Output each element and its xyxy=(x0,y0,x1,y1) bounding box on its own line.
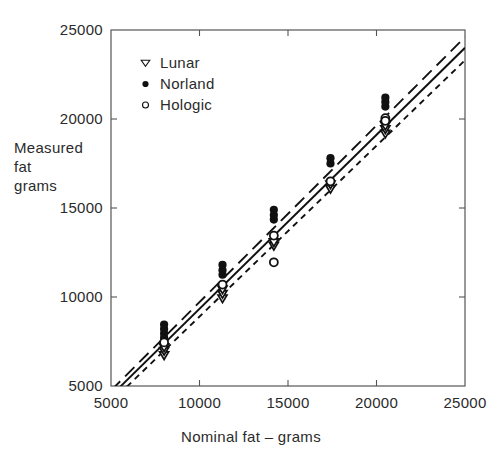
y-axis-title-line: grams xyxy=(14,176,83,195)
y-axis-title: Measuredfatgrams xyxy=(14,138,83,195)
x-tick-label: 10000 xyxy=(160,394,240,411)
y-tick-label: 20000 xyxy=(37,110,103,127)
x-tick-label: 25000 xyxy=(425,394,502,411)
filled-circle-icon xyxy=(137,75,154,92)
data-point-norland xyxy=(270,206,278,214)
data-point-norland xyxy=(160,320,168,328)
data-point-hologic xyxy=(160,338,168,346)
chart-legend: Lunar Norland Hologic xyxy=(137,52,215,115)
legend-label: Norland xyxy=(160,75,215,92)
data-point-hologic xyxy=(381,117,389,125)
data-point-norland xyxy=(326,154,334,162)
data-point-norland xyxy=(381,94,389,102)
legend-item-hologic: Hologic xyxy=(137,94,215,115)
open-circle-icon xyxy=(137,96,154,113)
data-point-hologic xyxy=(270,232,278,240)
y-axis-title-line: fat xyxy=(14,157,83,176)
x-tick-label: 5000 xyxy=(71,394,151,411)
y-tick-label: 10000 xyxy=(37,288,103,305)
legend-item-norland: Norland xyxy=(137,73,215,94)
y-tick-label: 5000 xyxy=(37,377,103,394)
data-point-norland xyxy=(218,261,226,269)
y-tick-label: 15000 xyxy=(37,199,103,216)
x-tick-label: 15000 xyxy=(248,394,328,411)
legend-item-lunar: Lunar xyxy=(137,52,215,73)
x-tick-label: 20000 xyxy=(337,394,417,411)
legend-label: Hologic xyxy=(160,96,212,113)
open-down-triangle-icon xyxy=(137,54,154,71)
data-point-hologic xyxy=(326,177,334,185)
y-tick-label: 25000 xyxy=(37,21,103,38)
data-point-hologic xyxy=(270,258,278,266)
x-axis-title: Nominal fat – grams xyxy=(0,428,502,445)
figure: Measuredfatgrams Nominal fat – grams Lun… xyxy=(0,0,502,453)
legend-label: Lunar xyxy=(160,54,200,71)
y-axis-title-line: Measured xyxy=(14,138,83,157)
data-point-hologic xyxy=(219,281,227,289)
